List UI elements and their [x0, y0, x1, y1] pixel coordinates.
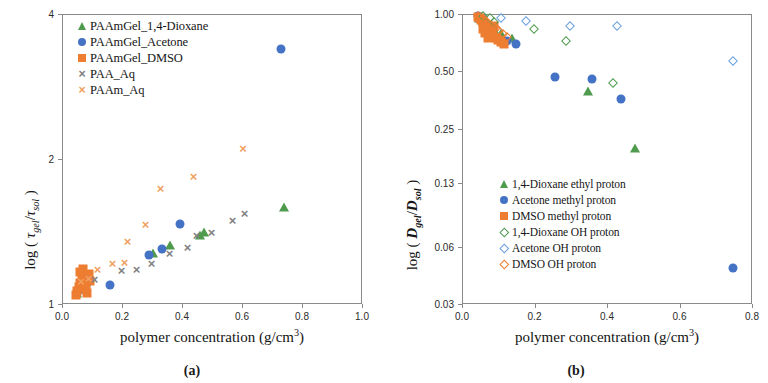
y-tick: [58, 14, 62, 15]
legend-item-a-1[interactable]: PAAmGel_Acetone: [74, 34, 208, 50]
data-point-square: [491, 33, 500, 42]
legend-item-a-4[interactable]: ×PAAm_Aq: [74, 82, 208, 98]
legend-item-b-3[interactable]: 1,4-Dioxane OH proton: [496, 224, 626, 240]
data-point-triangle: [583, 86, 593, 95]
data-point-x: ×: [190, 170, 198, 183]
data-point-square: [477, 16, 486, 25]
x-tick-label: 0.0: [455, 311, 469, 322]
data-point-x: ×: [184, 240, 192, 253]
data-point-x: ×: [85, 271, 93, 284]
data-point-triangle: [507, 33, 517, 42]
data-point-diamond: [499, 243, 508, 252]
data-point-triangle: [482, 19, 492, 28]
legend-label: 1,4-Dioxane ethyl proton: [512, 178, 626, 190]
data-point-diamond: [485, 13, 495, 23]
data-point-diamond: [499, 227, 508, 236]
x-axis-title-b: polymer concentration (g/cm3): [515, 327, 699, 346]
data-point-circle: [81, 281, 90, 290]
data-point-square: [81, 281, 90, 290]
data-point-square: [473, 12, 482, 21]
data-point-diamond: [484, 19, 494, 29]
x-tick-label: 0.4: [175, 311, 189, 322]
data-point-square: [481, 29, 490, 38]
legend-marker-diamond-icon: [496, 261, 512, 268]
y-axis-title-a: log ( τgel/τsol ): [22, 190, 41, 270]
data-point-square: [484, 33, 493, 42]
data-point-square: [490, 21, 499, 30]
data-point-triangle: [496, 29, 506, 38]
data-point-x: ×: [166, 247, 174, 260]
x-tick: [680, 304, 681, 308]
legend-item-a-2[interactable]: PAAmGel_DMSO: [74, 50, 208, 66]
data-point-diamond: [487, 21, 497, 31]
data-point-circle: [276, 44, 285, 53]
data-point-diamond: [608, 78, 618, 88]
data-point-circle: [551, 73, 560, 82]
data-point-diamond: [475, 13, 485, 23]
legend-item-a-3[interactable]: ×PAA_Aq: [74, 66, 208, 82]
data-point-square: [479, 25, 488, 34]
data-point-diamond: [491, 23, 501, 33]
data-point-square: [496, 38, 505, 47]
legend-item-a-0[interactable]: PAAmGel_1,4-Dioxane: [74, 18, 208, 34]
data-point-square: [83, 273, 92, 282]
data-point-x: ×: [121, 255, 129, 268]
legend-label: 1,4-Dioxane OH proton: [512, 226, 619, 238]
legend-marker-diamond-icon: [496, 229, 512, 236]
data-point-triangle: [148, 249, 158, 258]
legend-item-b-5[interactable]: DMSO OH proton: [496, 256, 626, 272]
x-tick-label: 0.6: [235, 311, 249, 322]
legend-label: DMSO methyl proton: [512, 210, 611, 222]
data-point-triangle: [199, 227, 209, 236]
data-point-circle: [144, 250, 153, 259]
x-tick: [122, 304, 123, 308]
legend-item-b-4[interactable]: Acetone OH proton: [496, 240, 626, 256]
data-point-diamond: [529, 24, 539, 34]
data-point-circle: [176, 220, 185, 229]
data-point-square: [499, 40, 508, 49]
x-tick: [182, 304, 183, 308]
data-point-x: ×: [239, 141, 247, 154]
data-point-square: [475, 14, 484, 23]
y-tick: [458, 183, 462, 184]
figure-container: ×××××××××××××××××××× 0.00.20.40.60.81.04…: [0, 0, 768, 383]
data-point-triangle: [81, 277, 91, 286]
data-point-circle: [158, 244, 167, 253]
legend-b: 1,4-Dioxane ethyl protonAcetone methyl p…: [496, 176, 626, 272]
data-point-circle: [476, 13, 485, 22]
legend-a: PAAmGel_1,4-DioxanePAAmGel_AcetonePAAmGe…: [74, 18, 208, 98]
data-point-square: [487, 29, 496, 38]
data-point-x: ×: [91, 273, 99, 286]
legend-item-b-0[interactable]: 1,4-Dioxane ethyl proton: [496, 176, 626, 192]
data-point-square: [500, 212, 509, 221]
legend-label: Acetone OH proton: [512, 242, 601, 254]
data-point-diamond: [481, 16, 491, 26]
y-axis-title-b: log ( Dgel/Dsol ): [404, 180, 423, 271]
data-point-diamond: [478, 11, 488, 21]
data-point-diamond: [473, 11, 483, 21]
data-point-circle: [511, 40, 520, 49]
data-point-triangle: [78, 22, 86, 30]
data-point-diamond: [499, 259, 508, 268]
x-tick: [462, 304, 463, 308]
data-point-triangle: [75, 284, 85, 293]
data-point-triangle: [478, 17, 488, 26]
data-point-square: [484, 25, 493, 34]
data-point-square: [482, 23, 491, 32]
legend-label: DMSO OH proton: [512, 258, 596, 270]
legend-label: Acetone methyl proton: [512, 194, 616, 206]
panel-a: ×××××××××××××××××××× 0.00.20.40.60.81.04…: [0, 0, 384, 383]
x-tick: [362, 304, 363, 308]
data-point-square: [489, 31, 498, 40]
y-tick-label: 0.25: [420, 123, 454, 134]
caption-b: (b): [384, 363, 768, 379]
y-tick-label: 1.00: [420, 9, 454, 20]
x-tick: [242, 304, 243, 308]
legend-item-b-2[interactable]: DMSO methyl proton: [496, 208, 626, 224]
data-point-diamond: [561, 36, 571, 46]
data-point-circle: [105, 281, 114, 290]
data-point-diamond: [494, 26, 504, 36]
legend-item-b-1[interactable]: Acetone methyl proton: [496, 192, 626, 208]
data-point-circle: [500, 196, 509, 205]
x-tick: [535, 304, 536, 308]
